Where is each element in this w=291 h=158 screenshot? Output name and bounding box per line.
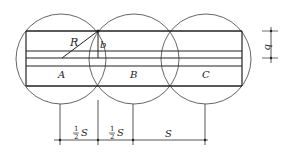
fraction-denominator: 2 bbox=[110, 133, 114, 141]
dim-tick-3 bbox=[132, 139, 134, 141]
b-dim-label: b bbox=[263, 44, 274, 50]
circle-c-label: C bbox=[202, 69, 210, 80]
b-dim-tick-top bbox=[270, 30, 272, 32]
circle-a-label: A bbox=[57, 69, 65, 80]
circle-c bbox=[161, 14, 251, 104]
circle-a bbox=[16, 14, 106, 104]
radius-label: R bbox=[69, 36, 78, 49]
fraction-numerator: 1 bbox=[110, 125, 114, 133]
half-s-label-2: 1 2 S bbox=[109, 125, 124, 141]
dim-tick-1 bbox=[59, 139, 61, 141]
half-s-label-1: 1 2 S bbox=[73, 125, 88, 141]
circle-b-label: B bbox=[129, 69, 137, 80]
b-inner-label: b bbox=[100, 39, 106, 50]
radius-line bbox=[62, 31, 98, 58]
circle-overlap-diagram: R b A B C b 1 2 S 1 2 S S bbox=[0, 0, 291, 158]
dim-tick-4 bbox=[204, 139, 206, 141]
s-symbol: S bbox=[117, 127, 124, 138]
s-symbol: S bbox=[81, 127, 88, 138]
s-label: S bbox=[165, 128, 172, 139]
fraction-denominator: 2 bbox=[74, 133, 78, 141]
circle-b bbox=[89, 14, 179, 104]
dim-tick-2 bbox=[97, 139, 99, 141]
b-dim-tick-bottom bbox=[270, 57, 272, 59]
fraction-numerator: 1 bbox=[74, 125, 78, 133]
